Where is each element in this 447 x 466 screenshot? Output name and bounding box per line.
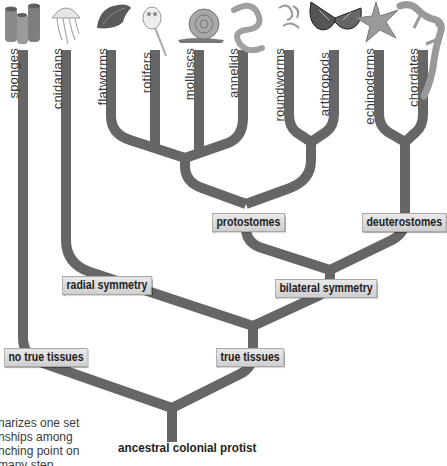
taxon-label: annelids bbox=[226, 48, 241, 98]
taxon-label: echinoderms bbox=[362, 48, 377, 125]
taxon-molluscs: molluscs bbox=[181, 48, 197, 148]
branch-true-tissues bbox=[172, 326, 253, 408]
taxon-annelids: annelids bbox=[225, 48, 241, 148]
taxon-label: rotifers bbox=[139, 52, 154, 93]
taxon-cnidarians: cnidarians bbox=[49, 48, 65, 148]
jellyfish-icon bbox=[48, 0, 84, 50]
node-protostomes: protostomes bbox=[212, 213, 285, 232]
root-label: ancestral colonial protist bbox=[118, 440, 256, 455]
taxon-label: roundworms bbox=[272, 48, 287, 122]
caption-text: narizes one set nships among nching poin… bbox=[0, 416, 108, 466]
taxon-label: arthropods bbox=[317, 52, 332, 116]
taxon-label: chordates bbox=[406, 48, 421, 107]
flatworm-icon bbox=[93, 0, 133, 38]
taxon-echinoderms: echinoderms bbox=[361, 48, 377, 148]
node-deuterostomes: deuterostomes bbox=[362, 213, 447, 232]
taxon-label: flatworms bbox=[95, 48, 110, 105]
lizard-icon bbox=[396, 0, 446, 104]
taxon-arthropods: arthropods bbox=[316, 52, 332, 152]
caption-line: narizes one set bbox=[0, 416, 108, 430]
taxon-label: sponges bbox=[6, 48, 21, 99]
roundworm-icon bbox=[275, 0, 305, 38]
node-radial-symmetry: radial symmetry bbox=[62, 276, 152, 295]
snail-icon bbox=[176, 0, 226, 48]
node-no-true-tissues: no true tissues bbox=[4, 348, 88, 367]
branch-ecdysozoa bbox=[246, 140, 311, 204]
taxon-label: cnidarians bbox=[50, 48, 65, 109]
taxon-chordates: chordates bbox=[405, 48, 421, 148]
node-true-tissues: true tissues bbox=[216, 348, 284, 367]
sponge-icon bbox=[2, 0, 44, 50]
caption-line: nching point on bbox=[0, 444, 108, 458]
caption-line: many step bbox=[0, 458, 108, 466]
node-bilateral-symmetry: bilateral symmetry bbox=[275, 279, 377, 298]
taxon-sponges: sponges bbox=[5, 48, 21, 148]
taxon-roundworms: roundworms bbox=[271, 48, 287, 148]
taxon-flatworms: flatworms bbox=[94, 48, 110, 148]
branch-lophotrochozoa bbox=[185, 155, 246, 204]
taxon-rotifers: rotifers bbox=[138, 52, 154, 152]
caption-line: nships among bbox=[0, 430, 108, 444]
taxon-label: molluscs bbox=[182, 48, 197, 100]
